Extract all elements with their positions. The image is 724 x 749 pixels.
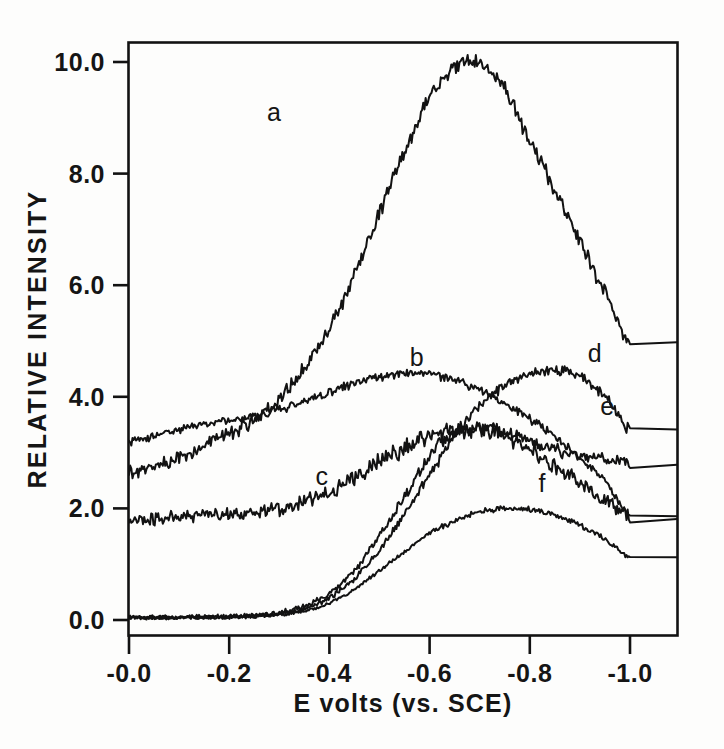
curve-a (129, 55, 677, 478)
y-tick-label: 10.0 (54, 48, 105, 76)
figure-container: 0.02.04.06.08.010.0 -0.0-0.2-0.4-0.6-0.8… (0, 0, 724, 749)
x-tick-label: -0.0 (106, 659, 151, 687)
x-axis-ticks (129, 636, 630, 654)
x-tick-label: -0.6 (407, 659, 452, 687)
y-axis-tick-labels: 0.02.04.06.08.010.0 (54, 48, 105, 634)
y-tick-label: 6.0 (69, 271, 105, 299)
chart-plot: 0.02.04.06.08.010.0 -0.0-0.2-0.4-0.6-0.8… (0, 0, 724, 749)
x-tick-label: -1.0 (607, 659, 652, 687)
y-tick-label: 2.0 (69, 494, 105, 522)
curve-label-e: e (600, 392, 614, 420)
curve-label-b: b (410, 343, 424, 371)
curve-label-c: c (315, 462, 328, 490)
curve-f (129, 506, 677, 619)
curve-label-d: d (588, 339, 602, 367)
y-axis-title: RELATIVE INTENSITY (23, 190, 51, 489)
y-tick-label: 4.0 (69, 383, 105, 411)
x-tick-label: -0.8 (507, 659, 552, 687)
y-axis-ticks (113, 62, 129, 620)
data-curves (129, 55, 677, 619)
x-axis-title: E volts (vs. SCE) (293, 689, 512, 717)
y-tick-label: 8.0 (69, 160, 105, 188)
curve-d (129, 366, 677, 619)
x-tick-label: -0.2 (207, 659, 252, 687)
curve-label-a: a (267, 98, 281, 126)
curve-label-f: f (539, 469, 546, 497)
y-tick-label: 0.0 (69, 606, 105, 634)
x-axis-tick-labels: -0.0-0.2-0.4-0.6-0.8-1.0 (106, 659, 652, 687)
x-tick-label: -0.4 (307, 659, 352, 687)
